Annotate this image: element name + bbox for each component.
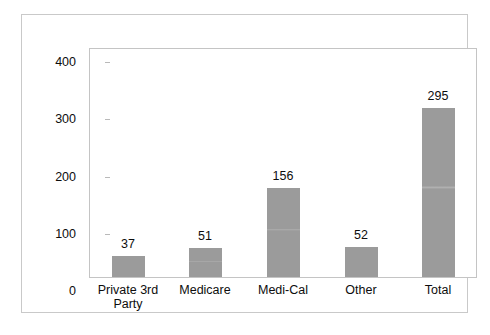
bar-value-medi-cal: 156: [273, 170, 294, 183]
figure-frame: 400 300 200 100 0 37 51 156 52 295 Priva…: [21, 14, 468, 313]
y-tick-mark-400: [105, 62, 110, 63]
bar-value-other: 52: [354, 229, 368, 242]
y-tick-mark-100: [105, 234, 110, 235]
bar-medicare[interactable]: [189, 248, 222, 277]
bar-value-private-3rd-party: 37: [121, 238, 135, 251]
y-tick-mark-200: [105, 177, 110, 178]
y-tick-label-400: 400: [55, 56, 76, 69]
y-tick-label-0: 0: [69, 285, 76, 298]
x-axis: Private 3rd Party Medicare Medi-Cal Othe…: [89, 283, 477, 327]
bar-value-total: 295: [428, 90, 449, 103]
y-tick-label-100: 100: [55, 228, 76, 241]
x-tick-label-total: Total: [393, 283, 483, 297]
x-tick-label-medicare: Medicare: [160, 283, 250, 297]
y-tick-label-300: 300: [55, 113, 76, 126]
bar-total[interactable]: [422, 108, 455, 277]
bar-value-medicare: 51: [198, 230, 212, 243]
y-tick-label-200: 200: [55, 171, 76, 184]
bar-medi-cal[interactable]: [267, 188, 300, 277]
y-tick-mark-300: [105, 119, 110, 120]
x-tick-label-medi-cal: Medi-Cal: [238, 283, 328, 297]
bar-other[interactable]: [345, 247, 378, 277]
bar-private-3rd-party[interactable]: [112, 256, 145, 277]
